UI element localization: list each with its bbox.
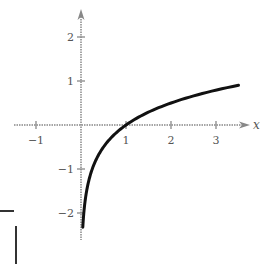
x-tick-label: −1 — [28, 134, 44, 147]
x-tick-label: 2 — [168, 134, 175, 147]
axes — [14, 9, 250, 240]
y-tick-label: 1 — [67, 75, 74, 88]
log-curve-chart: −112321−1−2 x — [0, 0, 263, 264]
y-axis-arrow-icon — [78, 9, 85, 20]
cropped-frame-fragment — [0, 211, 16, 264]
x-tick-label: 1 — [123, 134, 130, 147]
y-tick-label: −1 — [58, 163, 74, 176]
x-tick-label: 3 — [213, 134, 220, 147]
y-tick-label: −2 — [58, 207, 74, 220]
y-tick-label: 2 — [67, 31, 74, 44]
x-axis-arrow-icon — [239, 122, 250, 129]
curve-line — [83, 85, 239, 227]
x-axis-label: x — [253, 118, 260, 132]
